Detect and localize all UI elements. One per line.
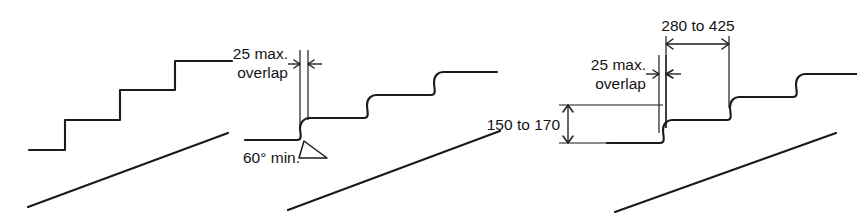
riser-angle-triangle-icon [299, 141, 327, 158]
overlap-label-line1-right: 25 max. [591, 56, 646, 73]
overlap-label-line2-middle: overlap [237, 64, 288, 81]
going-dimension-label: 280 to 425 [661, 17, 734, 34]
overlap-label-line2-right: overlap [595, 75, 646, 92]
panel-right-group: 280 to 425 25 max. overlap 150 to 170 [487, 17, 857, 212]
figure-canvas: 25 max. overlap 60° min. 280 to 425 [0, 0, 857, 221]
riser-angle-label-middle: 60° min. [243, 149, 300, 166]
curved-nosing-profile-path-middle [245, 72, 497, 140]
stair-pitch-line-right [615, 133, 836, 212]
square-stair-profile-path [29, 61, 232, 150]
stair-pitch-line-middle [288, 131, 500, 210]
rise-dimension-label: 150 to 170 [487, 116, 561, 133]
panel-middle-group: 25 max. overlap 60° min. [233, 45, 500, 210]
panel-left-group [28, 61, 232, 207]
stair-pitch-line [28, 133, 228, 207]
overlap-label-line1-middle: 25 max. [233, 45, 288, 62]
stair-nosing-figure: 25 max. overlap 60° min. 280 to 425 [0, 0, 857, 221]
